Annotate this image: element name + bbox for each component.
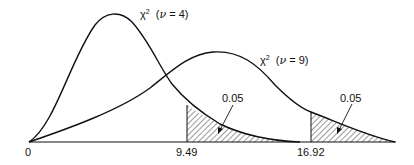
tick-label-zero: 0 bbox=[25, 147, 31, 158]
tail-area-df4 bbox=[187, 105, 300, 142]
chi-square-chart: χ2 (ν = 4) χ2 (ν = 9) 0.05 0.05 0 9.49 1… bbox=[0, 0, 414, 165]
superscript: 2 bbox=[146, 8, 150, 15]
df-value: = 9) bbox=[286, 54, 308, 66]
df-value: = 4) bbox=[166, 8, 188, 20]
superscript: 2 bbox=[266, 54, 270, 61]
curve-df4 bbox=[29, 14, 300, 142]
curve-label-df9: χ2 (ν = 9) bbox=[260, 54, 309, 66]
chart-plot-area bbox=[0, 0, 414, 165]
tail-label-df4: 0.05 bbox=[222, 93, 243, 104]
curve-label-df4: χ2 (ν = 4) bbox=[140, 8, 189, 20]
tail-label-df9: 0.05 bbox=[340, 93, 361, 104]
tick-label-9-49: 9.49 bbox=[176, 147, 197, 158]
tick-label-16-92: 16.92 bbox=[297, 147, 325, 158]
